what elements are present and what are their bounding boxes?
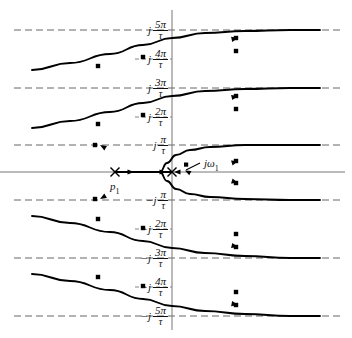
locus-marker-14 [96,64,100,68]
tick-label-1-fraction: 4πτ [153,48,168,70]
tick-label-2: j3πτ [148,77,168,99]
tick-label-7-fraction: 3πτ [153,247,168,269]
tick-label-5-numerator: π [158,189,168,200]
locus-marker-2 [93,143,97,147]
locus-marker-19 [234,290,238,294]
tick-label-9-fraction: 5πτ [153,305,168,327]
locus-branch-center-upper [160,145,320,172]
locus-branch-lower-3pi [32,216,320,258]
arrow-tail-b-head [99,143,107,151]
locus-marker-10 [96,217,100,221]
tick-label-3: j2πτ [148,106,168,128]
tick-label-8: −j4πτ [141,276,169,298]
tick-label-1-denominator: τ [153,59,168,70]
arrow-real-1 [128,169,135,174]
plot-canvas [0,0,352,338]
tick-label-8-fraction: 4πτ [153,276,168,298]
locus-marker-7 [234,107,238,111]
arrow-tail-b [99,143,107,151]
locus-marker-0 [93,197,97,201]
pole-label-p1-subscript: 1 [116,187,120,196]
locus-marker-17 [234,303,238,307]
locus-marker-1 [234,159,238,163]
tick-label-4-denominator: τ [158,145,168,156]
tick-label-2-fraction: 3πτ [153,77,168,99]
tick-label-6: −j2πτ [141,218,169,240]
tick-label-5-fraction: πτ [158,189,168,211]
locus-marker-12 [141,55,145,59]
tick-label-6-denominator: τ [153,229,168,240]
tick-label-2-denominator: τ [153,88,168,99]
tick-label-0: j5πτ [148,19,168,41]
locus-marker-13 [234,36,238,40]
tick-label-4-numerator: π [158,134,168,145]
locus-branch-upper-3pi [32,88,320,128]
tick-label-8-numerator: 4π [153,276,168,287]
tick-label-8-denominator: τ [153,287,168,298]
omega-branch-marker [184,163,188,167]
tick-label-5-denominator: τ [158,200,168,211]
locus-branch-center-lower [160,172,320,200]
locus-branch-upper-5pi [32,30,320,70]
locus-marker-15 [234,49,238,53]
locus-marker-9 [234,245,238,249]
tick-label-7-numerator: 3π [153,247,168,258]
locus-marker-6 [96,122,100,126]
tick-label-0-fraction: 5πτ [153,19,168,41]
tick-label-9-denominator: τ [153,316,168,327]
root-locus-figure: j5πτj4πτj3πτj2πτjπτ−jπτ−j2πτ−j3πτ−j4πτ−j… [0,0,352,338]
tick-label-1-sign: j [148,53,151,65]
tick-label-6-numerator: 2π [153,218,168,229]
tick-label-3-denominator: τ [153,117,168,128]
arrow-real-inward [174,169,181,174]
tick-label-7-denominator: τ [153,258,168,269]
omega-label-jw1: jω1 [204,153,219,173]
locus-marker-18 [96,275,100,279]
tick-label-7: −j3πτ [141,247,169,269]
pole-label-p1: p1 [110,176,120,196]
tick-label-2-sign: j [148,82,151,94]
arrow-real-inward-head [174,169,181,174]
locus-marker-5 [234,94,238,98]
tick-label-3-sign: j [148,111,151,123]
tick-label-6-fraction: 2πτ [153,218,168,240]
locus-marker-3 [234,181,238,185]
tick-label-3-fraction: 2πτ [153,106,168,128]
omega-label-jw1-subscript: 1 [215,164,219,173]
tick-label-5: −jπτ [146,189,168,211]
tick-label-9-sign: −j [141,310,151,322]
tick-label-0-sign: j [148,24,151,36]
tick-label-9: −j5πτ [141,305,169,327]
tick-label-8-sign: −j [141,281,151,293]
locus-branch-lower-5pi [32,274,320,316]
tick-label-7-sign: −j [141,252,151,264]
tick-label-4: jπτ [153,134,168,156]
tick-label-3-numerator: 2π [153,106,168,117]
tick-label-9-numerator: 5π [153,305,168,316]
tick-label-0-numerator: 5π [153,19,168,30]
tick-label-4-sign: j [153,139,156,151]
tick-label-1: j4πτ [148,48,168,70]
tick-label-4-fraction: πτ [158,134,168,156]
omega-label-jw1-symbol: jω [204,157,215,169]
locus-marker-4 [141,113,145,117]
tick-label-2-numerator: 3π [153,77,168,88]
locus-marker-11 [234,232,238,236]
tick-label-1-numerator: 4π [153,48,168,59]
tick-label-5-sign: −j [146,194,156,206]
arrow-real-1-head [128,169,135,174]
tick-label-0-denominator: τ [153,30,168,41]
tick-label-6-sign: −j [141,223,151,235]
